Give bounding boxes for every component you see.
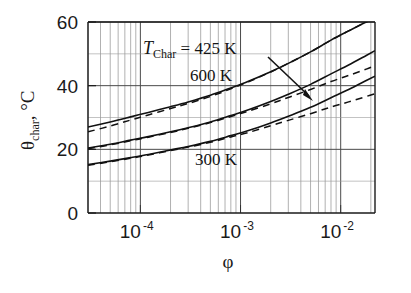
y-axis-title-subscript: char: [28, 120, 42, 141]
figure-container: 0204060 10-410-310-2 θchar, °C φ TChar =…: [0, 0, 411, 293]
x-axis-title: φ: [223, 251, 234, 272]
annotation-300k: 300 K: [195, 150, 238, 169]
y-axis-title-symbol: θ: [17, 141, 38, 150]
y-axis-title-unit: , °C: [17, 90, 38, 120]
annotation-600k: 600 K: [190, 66, 233, 85]
x-tick-label-exponent: -4: [143, 219, 154, 233]
y-tick-label: 60: [57, 12, 78, 33]
annot-425-subscript: Char: [153, 47, 176, 61]
chart-canvas: 0204060 10-410-310-2 θchar, °C φ TChar =…: [0, 0, 411, 293]
x-tick-label-base: 10: [120, 221, 141, 242]
x-tick-label-exponent: -2: [343, 219, 354, 233]
y-tick-label: 40: [57, 76, 78, 97]
x-tick-label-base: 10: [320, 221, 341, 242]
y-tick-label: 0: [67, 203, 78, 224]
x-tick-label-exponent: -3: [243, 219, 254, 233]
y-tick-label: 20: [57, 139, 78, 160]
annot-425-rest: = 425 K: [176, 39, 237, 58]
x-tick-label-base: 10: [220, 221, 241, 242]
